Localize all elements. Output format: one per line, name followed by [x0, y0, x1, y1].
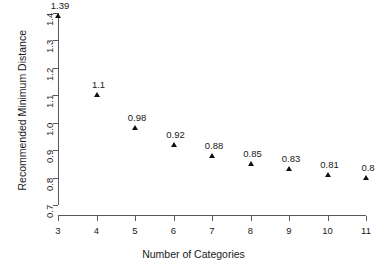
data-point-marker	[132, 125, 138, 130]
x-tick	[58, 216, 59, 221]
y-axis-line	[58, 13, 59, 205]
x-tick-label: 8	[248, 226, 253, 236]
x-tick-label: 5	[132, 226, 137, 236]
x-tick-label: 4	[94, 226, 99, 236]
chart-plot-area: 0.70.80.91.01.11.21.31.4 34567891011 1.3…	[0, 0, 387, 270]
y-tick-label: 0.7	[45, 205, 55, 223]
y-tick-label: 1.2	[45, 68, 55, 86]
x-tick-label: 11	[361, 226, 371, 236]
y-axis-title: Recommended Minimum Distance	[17, 10, 28, 210]
y-tick-label: 0.9	[45, 150, 55, 168]
data-point-label: 0.85	[243, 149, 262, 159]
data-point-label: 0.98	[128, 113, 147, 123]
y-tick-label: 0.8	[45, 177, 55, 195]
x-tick	[135, 216, 136, 221]
x-tick-label: 9	[286, 226, 291, 236]
data-point-marker	[55, 13, 61, 18]
data-point-label: 0.92	[166, 130, 185, 140]
x-axis-title: Number of Categories	[0, 249, 387, 260]
x-tick-label: 7	[209, 226, 214, 236]
data-point-marker	[363, 175, 369, 180]
y-tick-label: 1.4	[45, 13, 55, 31]
x-tick	[366, 216, 367, 221]
x-tick-label: 6	[171, 226, 176, 236]
data-point-label: 0.81	[320, 160, 339, 170]
x-tick-label: 3	[55, 226, 60, 236]
data-point-marker	[325, 172, 331, 177]
data-point-label: 1.1	[92, 80, 105, 90]
y-tick-label: 1.3	[45, 40, 55, 58]
data-point-marker	[248, 161, 254, 166]
data-point-marker	[209, 153, 215, 158]
data-point-marker	[171, 142, 177, 147]
data-point-marker	[94, 92, 100, 97]
x-tick-label: 10	[322, 226, 333, 236]
x-tick	[97, 216, 98, 221]
y-tick-label: 1.0	[45, 122, 55, 140]
y-tick-label: 1.1	[45, 95, 55, 113]
data-point-label: 0.88	[205, 141, 224, 151]
data-point-label: 1.39	[51, 1, 70, 11]
x-tick	[251, 216, 252, 221]
data-point-label: 0.8	[361, 163, 374, 173]
x-tick	[174, 216, 175, 221]
data-point-marker	[286, 166, 292, 171]
data-point-label: 0.83	[282, 154, 301, 164]
x-tick	[212, 216, 213, 221]
x-tick	[289, 216, 290, 221]
x-tick	[328, 216, 329, 221]
